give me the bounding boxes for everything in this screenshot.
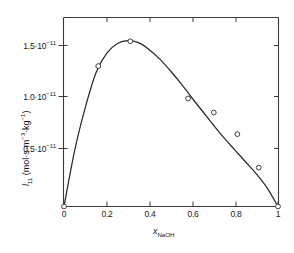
- x-tick-label-2: 0.4: [138, 209, 162, 219]
- x-axis-ticks-top: [107, 18, 236, 23]
- x-tick-label-0: 0: [52, 209, 76, 219]
- y-tick-label-1: 1.0·10−11: [6, 90, 56, 102]
- y-axis-ticks-right: [274, 46, 279, 149]
- data-point: [256, 165, 261, 170]
- data-point: [211, 110, 216, 115]
- data-point: [128, 39, 133, 44]
- y-axis-title: l11 (mol·s·m−3·kg−1): [19, 111, 33, 186]
- y-tick-label-2: 1.5·10−11: [6, 39, 56, 51]
- data-point-markers: [62, 39, 281, 209]
- x-tick-label-1: 0.2: [95, 209, 119, 219]
- data-point: [235, 132, 240, 137]
- x-axis-title: xNaOH: [153, 226, 174, 238]
- data-point: [186, 96, 191, 101]
- x-tick-label-3: 0.6: [181, 209, 205, 219]
- chart-figure: 0.5·10−11 1.0·10−11 1.5·10−11 0 0.2 0.4 …: [0, 0, 294, 253]
- data-point: [96, 64, 101, 69]
- x-tick-label-5: 1: [266, 209, 290, 219]
- axis-frame: [64, 18, 279, 207]
- x-tick-label-4: 0.8: [224, 209, 248, 219]
- x-axis-ticks: [64, 202, 278, 207]
